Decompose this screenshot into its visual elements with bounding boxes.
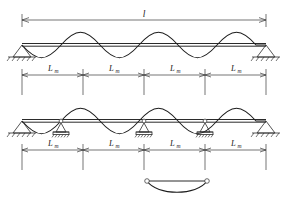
segment-label: L [47, 138, 53, 148]
upper-support-right [251, 45, 280, 61]
detail-mode-shape-curve [147, 181, 207, 192]
lower-support-left [7, 121, 36, 137]
segment-label: L [230, 63, 236, 73]
segment-subscript: m [238, 68, 242, 74]
segment-subscript: m [177, 68, 181, 74]
beam-buckling-diagram: l [0, 0, 288, 203]
segment-label: L [169, 138, 175, 148]
segment-subscript: m [177, 143, 181, 149]
segment-label: L [230, 138, 236, 148]
lower-segment-label-3: L m [169, 138, 181, 149]
segment-subscript: m [238, 143, 242, 149]
lower-segment-label-4: L m [230, 138, 242, 149]
upper-panel: l [7, 9, 280, 95]
segment-label: L [108, 63, 114, 73]
segment-label: L [47, 63, 53, 73]
segment-subscript: m [116, 68, 120, 74]
lower-panel: L m L m L m L m [7, 108, 280, 170]
upper-beam-member [22, 44, 266, 47]
upper-segment-label-4: L m [230, 63, 242, 74]
segment-label: L [108, 138, 114, 148]
span-dimension: l [22, 9, 266, 27]
segment-subscript: m [55, 68, 59, 74]
segment-subscript: m [55, 143, 59, 149]
upper-segment-dimensions: L m L m L m L m [22, 63, 266, 95]
detail-hinge-left [145, 179, 150, 184]
detail-hinge-right [205, 179, 210, 184]
lower-segment-label-1: L m [47, 138, 59, 149]
upper-mode-shape-curve [22, 32, 266, 58]
upper-segment-label-3: L m [169, 63, 181, 74]
upper-segment-label-1: L m [47, 63, 59, 74]
upper-support-left [7, 45, 36, 61]
segment-label: L [169, 63, 175, 73]
lower-segment-label-2: L m [108, 138, 120, 149]
lower-segment-dimensions: L m L m L m L m [22, 138, 266, 170]
detail-panel [145, 179, 210, 193]
lower-support-right [251, 121, 280, 137]
segment-subscript: m [116, 143, 120, 149]
span-length-label: l [143, 9, 146, 19]
upper-segment-label-2: L m [108, 63, 120, 74]
